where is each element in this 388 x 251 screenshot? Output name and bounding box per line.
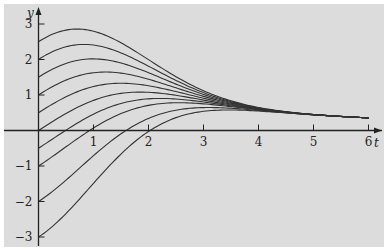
x-tick-label: 3 [200,135,208,149]
x-tick-label: 6 [365,135,373,149]
x-tick-label: 1 [90,135,98,149]
y-tick-label: −3 [15,230,33,244]
y-tick-label: −2 [15,195,33,209]
y-axis-arrow-icon [36,7,42,15]
y-tick-label: −1 [15,159,33,173]
y-tick-label: 1 [25,88,33,102]
solution-curve [39,108,369,202]
plot-area: 123456321−1−2−3ty [0,0,388,251]
solution-curve [39,44,369,117]
x-tick-label: 2 [145,135,153,149]
y-tick-label: 2 [25,53,33,67]
x-axis-arrow-icon [374,128,382,134]
y-axis-label: y [26,6,34,20]
x-tick-label: 4 [255,135,263,149]
x-axis-label: t [374,136,379,150]
x-tick-label: 5 [310,135,318,149]
chart-figure: 123456321−1−2−3ty [0,0,388,251]
